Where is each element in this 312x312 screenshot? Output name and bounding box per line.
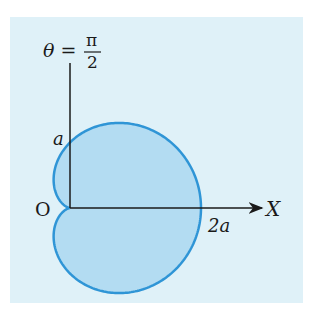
cardioid-diagram: θ = π 2 a O 2a X	[0, 0, 312, 312]
pi-label: π	[86, 30, 97, 50]
two-label: 2	[87, 52, 98, 72]
origin-label: O	[35, 198, 51, 220]
a-label: a	[53, 128, 64, 149]
x-axis-label: X	[264, 197, 281, 221]
theta-label: θ =	[43, 39, 76, 61]
two-a-label: 2a	[207, 215, 230, 236]
